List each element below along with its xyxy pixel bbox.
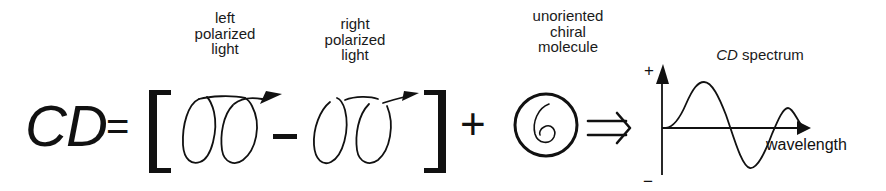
x-axis-label: wavelength: [766, 136, 847, 154]
y-axis-plus-label: +: [644, 62, 654, 80]
right-helix-icon: [314, 96, 408, 163]
close-bracket-icon: [424, 90, 446, 173]
cd-curve: [666, 82, 802, 168]
cd-equation-diagram: left polarized light right polarized lig…: [0, 0, 886, 191]
chiral-molecule-icon: [515, 94, 577, 156]
left-helix-arrowhead: [260, 91, 282, 104]
minus-bar: [273, 134, 297, 139]
cd-spectrum-chart: [656, 64, 811, 175]
open-bracket-icon: [149, 90, 171, 173]
right-helix-arrowhead: [402, 91, 419, 101]
left-helix-icon: [183, 96, 274, 163]
y-axis-arrowhead: [656, 64, 669, 84]
implies-arrow-icon: [588, 113, 630, 143]
y-axis-minus-label: −: [643, 173, 653, 191]
diagram-graphics: [0, 0, 886, 191]
